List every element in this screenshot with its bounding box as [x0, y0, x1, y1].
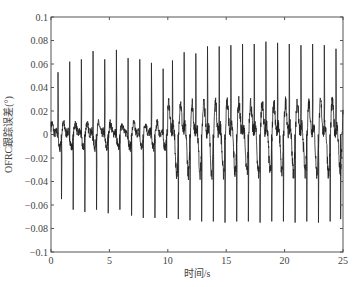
y-tick-label: −0.1	[30, 247, 48, 258]
x-tick-label: 5	[107, 255, 112, 266]
y-tick-label: 0.1	[36, 12, 49, 23]
y-tick-label: 0.06	[31, 59, 49, 70]
y-tick-label: −0.04	[25, 176, 48, 187]
line-chart: 0.10.080.060.040.020−0.02−0.04−0.06−0.08…	[0, 0, 358, 287]
tracking-error-series	[51, 42, 343, 223]
y-axis-label: OFRC跟踪误差(°)	[2, 96, 15, 173]
x-tick-label: 15	[221, 255, 231, 266]
y-tick-label: −0.06	[25, 200, 48, 211]
x-tick-label: 20	[280, 255, 290, 266]
x-tick-label: 0	[49, 255, 54, 266]
y-tick-label: 0.04	[31, 82, 49, 93]
y-tick-label: −0.02	[25, 153, 48, 164]
x-tick-label: 25	[338, 255, 348, 266]
y-tick-label: 0.08	[31, 35, 49, 46]
y-tick-label: −0.08	[25, 223, 48, 234]
x-axis-label: 时间/s	[184, 267, 211, 279]
tracking-error-line	[51, 42, 343, 223]
y-tick-label: 0.02	[31, 106, 49, 117]
x-tick-label: 10	[163, 255, 173, 266]
y-tick-label: 0	[43, 129, 48, 140]
